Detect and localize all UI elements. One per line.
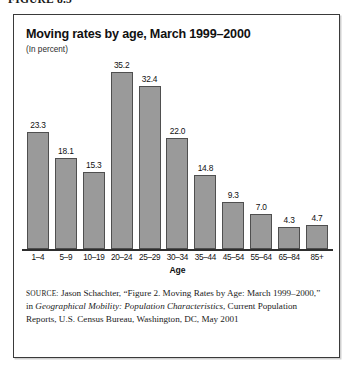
bar-slot: 18.1	[52, 59, 80, 249]
bar-series: 23.318.115.335.232.422.014.89.37.04.34.7	[22, 59, 333, 249]
bar-value-label: 4.3	[284, 216, 295, 224]
figure-frame: Moving rates by age, March 1999–2000 (In…	[13, 14, 340, 358]
bar-value-label: 7.0	[256, 203, 267, 211]
bar	[111, 72, 133, 249]
bar-slot: 23.3	[24, 59, 52, 249]
bar-value-label: 32.4	[142, 75, 158, 83]
bar	[55, 158, 77, 249]
chart-title: Moving rates by age, March 1999–2000	[26, 27, 251, 41]
bar-slot: 35.2	[108, 59, 136, 249]
x-tick-label: 65–84	[275, 253, 303, 262]
bar-value-label: 22.0	[170, 127, 186, 135]
bar	[27, 132, 49, 249]
bar-slot: 9.3	[219, 59, 247, 249]
bar	[83, 172, 105, 249]
source-italic-title: Geographical Mobility: Population Charac…	[35, 301, 223, 311]
x-tick-label: 30–34	[164, 253, 192, 262]
bar	[250, 214, 272, 249]
bar	[222, 202, 244, 249]
bar-slot: 4.7	[303, 59, 331, 249]
x-tick-label: 10–19	[80, 253, 108, 262]
x-axis-tick-labels: 1–45–910–1920–2425–2930–3435–4445–5455–6…	[22, 253, 333, 262]
bar	[166, 138, 188, 249]
x-tick-label: 45–54	[219, 253, 247, 262]
x-tick-label: 25–29	[136, 253, 164, 262]
bar	[278, 227, 300, 249]
source-note: SOURCE: Jason Schachter, “Figure 2. Movi…	[26, 287, 325, 326]
bar-value-label: 35.2	[114, 61, 130, 69]
bar-slot: 14.8	[191, 59, 219, 249]
bar	[194, 175, 216, 249]
x-tick-label: 85+	[303, 253, 331, 262]
x-axis-title: Age	[22, 265, 333, 275]
bar-slot: 7.0	[247, 59, 275, 249]
source-label: SOURCE:	[26, 289, 59, 298]
x-tick-label: 20–24	[108, 253, 136, 262]
bar-slot: 32.4	[136, 59, 164, 249]
bar	[306, 225, 328, 249]
bar-value-label: 14.8	[198, 164, 214, 172]
bar-value-label: 23.3	[30, 121, 46, 129]
x-tick-label: 55–64	[247, 253, 275, 262]
chart-subtitle: (In percent)	[26, 45, 68, 54]
bar-slot: 15.3	[80, 59, 108, 249]
bar-value-label: 18.1	[58, 147, 74, 155]
bar-value-label: 4.7	[311, 214, 322, 222]
x-axis-baseline	[22, 249, 333, 251]
x-tick-label: 35–44	[191, 253, 219, 262]
x-tick-label: 1–4	[24, 253, 52, 262]
figure-caption: FIGURE 8.5	[8, 0, 72, 5]
bar-value-label: 9.3	[228, 191, 239, 199]
bar-value-label: 15.3	[86, 161, 102, 169]
bar	[139, 86, 161, 249]
x-tick-label: 5–9	[52, 253, 80, 262]
bar-slot: 4.3	[275, 59, 303, 249]
plot-area: 23.318.115.335.232.422.014.89.37.04.34.7	[22, 59, 333, 249]
bar-slot: 22.0	[164, 59, 192, 249]
